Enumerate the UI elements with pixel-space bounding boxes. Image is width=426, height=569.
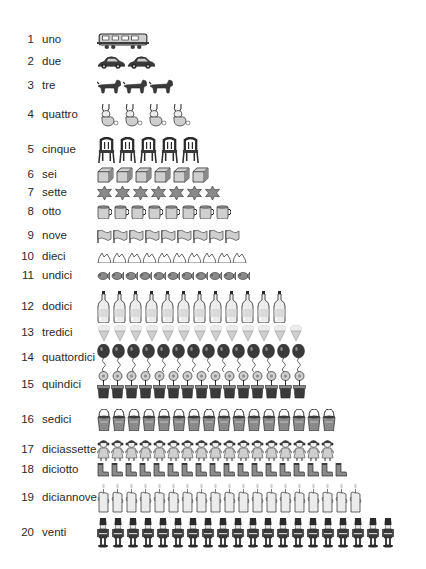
number-row-5: 5 cinque: [0, 137, 426, 163]
cube-group: [97, 167, 211, 183]
boot-icon: [293, 463, 305, 477]
bucket-icon: [112, 409, 126, 431]
boot-icon: [125, 463, 137, 477]
car-icon: [97, 55, 125, 69]
toy-soldier-icon: [352, 518, 364, 548]
paper-boat-icon: [217, 251, 232, 263]
toy-soldier-group: [97, 518, 397, 548]
number-row-12: 12 dodici: [0, 291, 426, 323]
flower-pot-icon: [153, 371, 166, 399]
flag-icon: [225, 229, 240, 243]
number-row-2: 2 due: [0, 55, 426, 69]
doll-icon: [125, 439, 138, 461]
candle-icon: [153, 483, 166, 513]
bucket-icon: [247, 409, 261, 431]
number-word: diciassette: [42, 443, 96, 455]
number-label: 18: [0, 463, 34, 475]
candle-icon: [209, 483, 222, 513]
doll-icon: [97, 439, 110, 461]
boot-icon: [111, 463, 123, 477]
balloon-icon: [277, 344, 290, 372]
number-word: tre: [42, 79, 55, 91]
number-word: quattro: [42, 108, 78, 120]
doll-group: [97, 439, 335, 461]
number-row-7: 7 sette: [0, 186, 426, 200]
fish-icon: [237, 271, 250, 281]
flag-icon: [209, 229, 224, 243]
fish-group: [97, 271, 251, 281]
flower-pot-group: [97, 371, 307, 399]
bucket-icon: [157, 409, 171, 431]
toy-soldier-icon: [97, 518, 109, 548]
doll-icon: [279, 439, 292, 461]
balloon-icon: [247, 344, 260, 372]
rabbit-icon: [97, 103, 119, 127]
bottle-icon: [241, 291, 254, 323]
flower-pot-icon: [195, 371, 208, 399]
toy-soldier-icon: [127, 518, 139, 548]
bucket-icon: [142, 409, 156, 431]
bucket-group: [97, 409, 337, 431]
ice-cream-cone-icon: [97, 325, 110, 341]
chair-icon: [160, 137, 179, 163]
fish-icon: [195, 271, 208, 281]
boot-icon: [209, 463, 221, 477]
bucket-icon: [262, 409, 276, 431]
number-row-17: 17 diciassette: [0, 439, 426, 461]
boot-icon: [167, 463, 179, 477]
balloon-icon: [187, 344, 200, 372]
cube-icon: [135, 167, 152, 183]
fish-icon: [209, 271, 222, 281]
number-label: 4: [0, 108, 34, 120]
toy-soldier-icon: [172, 518, 184, 548]
number-row-6: 6 sei: [0, 167, 426, 183]
star-icon: [115, 186, 130, 200]
doll-icon: [111, 439, 124, 461]
number-word: undici: [42, 269, 72, 281]
bucket-icon: [292, 409, 306, 431]
number-word: sette: [42, 186, 67, 198]
candle-icon: [293, 483, 306, 513]
number-label: 7: [0, 186, 34, 198]
toy-soldier-icon: [322, 518, 334, 548]
flower-pot-icon: [223, 371, 236, 399]
candle-icon: [237, 483, 250, 513]
mug-icon: [114, 205, 129, 219]
toy-soldier-icon: [232, 518, 244, 548]
rabbit-group: [97, 103, 193, 127]
fish-icon: [139, 271, 152, 281]
toy-soldier-icon: [112, 518, 124, 548]
number-row-3: 3 tre: [0, 78, 426, 94]
doll-icon: [153, 439, 166, 461]
number-row-1: 1 uno: [0, 31, 426, 49]
flag-icon: [97, 229, 112, 243]
number-word: quindici: [42, 378, 81, 390]
bucket-icon: [172, 409, 186, 431]
bucket-icon: [97, 409, 111, 431]
toy-soldier-icon: [367, 518, 379, 548]
boot-icon: [265, 463, 277, 477]
flower-pot-icon: [265, 371, 278, 399]
ice-cream-cone-icon: [209, 325, 222, 341]
fish-icon: [125, 271, 138, 281]
number-label: 2: [0, 55, 34, 67]
candle-icon: [349, 483, 362, 513]
rabbit-icon: [121, 103, 143, 127]
ice-cream-cone-group: [97, 325, 305, 341]
number-word: cinque: [42, 143, 76, 155]
bottle-icon: [257, 291, 270, 323]
doll-icon: [251, 439, 264, 461]
balloon-icon: [127, 344, 140, 372]
toy-soldier-icon: [262, 518, 274, 548]
number-row-18: 18 diciotto: [0, 463, 426, 477]
candle-icon: [223, 483, 236, 513]
number-label: 16: [0, 413, 34, 425]
dog-icon: [123, 78, 147, 94]
ice-cream-cone-icon: [177, 325, 190, 341]
doll-icon: [209, 439, 222, 461]
doll-icon: [167, 439, 180, 461]
number-label: 13: [0, 326, 34, 338]
bucket-icon: [232, 409, 246, 431]
star-icon: [169, 186, 184, 200]
boot-icon: [153, 463, 165, 477]
